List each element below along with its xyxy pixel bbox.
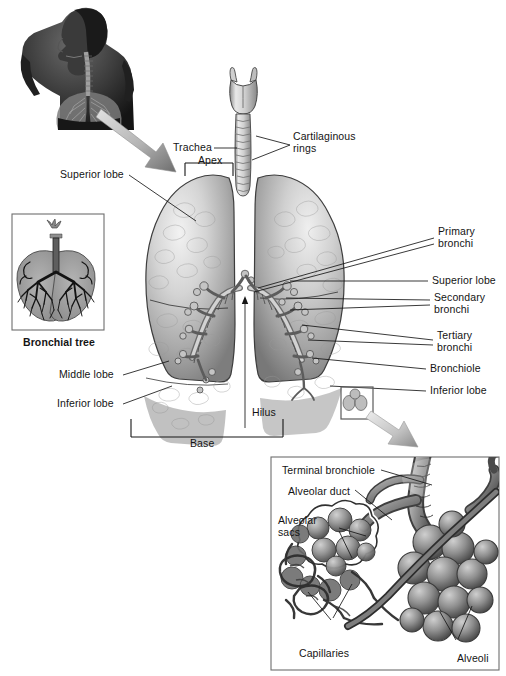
label-alveolar-duct: Alveolar duct [288, 486, 350, 498]
label-apex: Apex [198, 155, 222, 167]
figure-canvas: Trachea Cartilaginous rings Apex Superio… [0, 0, 506, 676]
hilus-arrowhead [242, 296, 248, 304]
left-lung-shape [146, 175, 235, 382]
label-trachea: Trachea [173, 142, 212, 154]
larynx-trachea-art [230, 68, 258, 197]
alveoli-inset-art [280, 452, 498, 642]
label-alveolar-sacs: Alveolar sacs [278, 515, 317, 538]
label-middle-lobe: Middle lobe [59, 369, 114, 381]
label-superior-lobe-left: Superior lobe [60, 169, 124, 181]
label-alveoli: Alveoli [457, 653, 489, 665]
label-superior-lobe-right: Superior lobe [432, 275, 496, 287]
label-terminal-bronchiole: Terminal bronchiole [282, 465, 375, 477]
lung-to-inset-arrow [366, 411, 418, 447]
label-secondary-bronchi: Secondary bronchi [434, 292, 485, 315]
label-hilus: Hilus [252, 407, 276, 419]
torso-panel-art [21, 8, 134, 132]
torso-to-lungs-arrow [96, 109, 176, 172]
bronchial-tree-art [17, 219, 95, 321]
label-inferior-lobe-left: Inferior lobe [57, 398, 114, 410]
label-inferior-lobe-right: Inferior lobe [430, 385, 487, 397]
label-base: Base [190, 438, 214, 450]
label-cartilaginous-rings: Cartilaginous rings [293, 131, 356, 154]
label-primary-bronchi: Primary bronchi [438, 226, 475, 249]
label-capillaries: Capillaries [299, 648, 349, 660]
label-tertiary-bronchi: Tertiary bronchi [437, 330, 472, 353]
label-bronchial-tree: Bronchial tree [23, 337, 95, 349]
label-bronchiole: Bronchiole [430, 363, 481, 375]
